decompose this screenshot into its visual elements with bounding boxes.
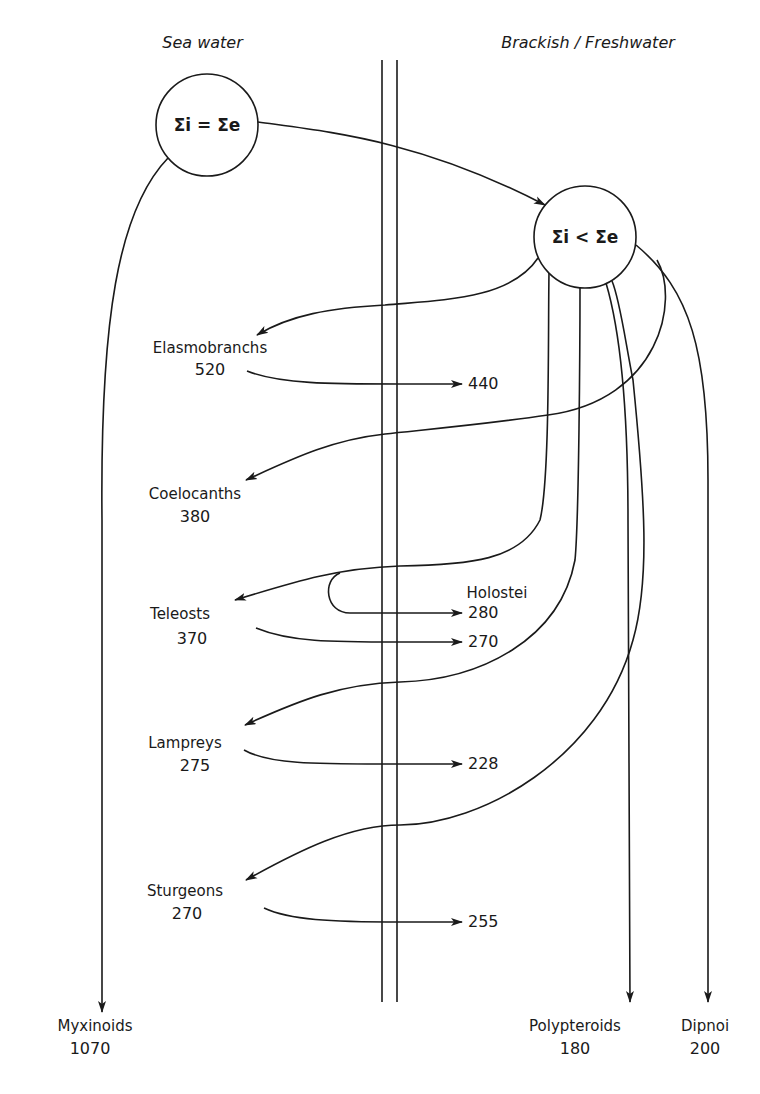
label-teleosts: Teleosts <box>135 605 225 623</box>
marine-state-label: Σi = Σe <box>157 116 257 134</box>
arrow-to-sturgeons <box>246 281 644 880</box>
label-elasmobranchs: Elasmobranchs <box>135 339 285 357</box>
fresh-state-label: Σi < Σe <box>535 228 635 246</box>
header-sea-water: Sea water <box>140 34 265 52</box>
label-dipnoi: Dipnoi <box>665 1017 745 1035</box>
arrow-lampreys-275-to-228 <box>244 750 462 764</box>
arrow-sturgeons-270-to-255 <box>264 908 462 922</box>
header-brackish-freshwater: Brackish / Freshwater <box>488 34 688 52</box>
value-sturgeons-fresh: 255 <box>468 913 508 931</box>
value-myxinoids: 1070 <box>50 1040 130 1058</box>
label-holostei: Holostei <box>452 584 542 602</box>
value-teleosts-marine: 370 <box>152 630 232 648</box>
label-polypteroids: Polypteroids <box>510 1017 640 1035</box>
value-lampreys-fresh: 228 <box>468 755 508 773</box>
arrow-holostei-to-280 <box>329 573 462 613</box>
value-lampreys-marine: 275 <box>155 757 235 775</box>
value-dipnoi: 200 <box>665 1040 745 1058</box>
value-coelocanths-marine: 380 <box>155 508 235 526</box>
osmoregulation-diagram <box>0 0 760 1094</box>
arrow-marine-to-fresh <box>258 122 545 205</box>
arrow-elasmobranchs-520-to-440 <box>247 371 462 384</box>
arrow-teleosts-370-to-270 <box>256 628 462 642</box>
value-holostei-fresh: 280 <box>468 604 508 622</box>
value-sturgeons-marine: 270 <box>147 905 227 923</box>
value-polypteroids: 180 <box>535 1040 615 1058</box>
label-coelocanths: Coelocanths <box>135 485 255 503</box>
label-lampreys: Lampreys <box>135 734 235 752</box>
arrow-to-polypteroids <box>606 283 630 1002</box>
value-teleosts-fresh: 270 <box>468 633 508 651</box>
label-sturgeons: Sturgeons <box>135 882 235 900</box>
label-myxinoids: Myxinoids <box>30 1017 160 1035</box>
value-elasmobranchs-fresh: 440 <box>468 375 508 393</box>
arrow-to-coelocanths <box>246 260 665 480</box>
arrow-to-lampreys <box>245 288 580 725</box>
value-elasmobranchs-marine: 520 <box>170 361 250 379</box>
